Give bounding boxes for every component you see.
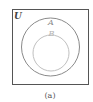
- set-a-label: A: [47, 18, 54, 27]
- venn-diagram: U A B (a): [0, 0, 93, 102]
- set-b-circle: [33, 35, 69, 71]
- set-b-label: B: [48, 29, 55, 38]
- figure-caption: (a): [44, 91, 55, 100]
- universe-label: U: [14, 11, 23, 21]
